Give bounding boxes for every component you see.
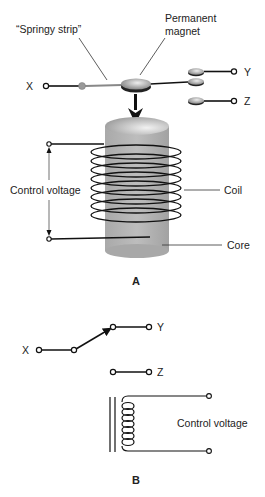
- core-label: Core: [227, 239, 250, 251]
- terminal-z-label-b: Z: [157, 366, 164, 378]
- switch-arm: [76, 330, 108, 349]
- springy-strip-label: “Springy strip”: [16, 23, 82, 35]
- contact-y: [188, 68, 237, 86]
- permanent-magnet: [121, 79, 151, 93]
- coil-label: Coil: [224, 184, 242, 196]
- terminal-y-label: Y: [244, 66, 251, 78]
- figure-a-caption: A: [132, 275, 140, 287]
- terminal-x: [43, 83, 48, 88]
- control-voltage-label-b: Control voltage: [177, 417, 248, 429]
- springy-strip-leader: [79, 38, 107, 80]
- springy-strip: [85, 85, 122, 86]
- relay-diagram: “Springy strip” Permanent magnet X Y: [0, 0, 265, 497]
- terminal-x-label: X: [26, 80, 33, 92]
- permanent-magnet-label-2: magnet: [165, 25, 200, 37]
- control-voltage-label-a: Control voltage: [10, 184, 81, 196]
- terminal-z-label: Z: [244, 95, 251, 107]
- contact-z: [188, 97, 237, 105]
- terminal-x-label-b: X: [22, 344, 29, 356]
- permanent-magnet-label-1: Permanent: [165, 12, 216, 24]
- terminal-y-label-b: Y: [157, 321, 164, 333]
- figure-b: X Y Z Control voltage B: [22, 321, 248, 486]
- magnet-leader: [140, 38, 165, 75]
- figure-b-caption: B: [132, 474, 140, 486]
- pivot-point: [79, 83, 86, 90]
- figure-a: “Springy strip” Permanent magnet X Y: [10, 12, 251, 287]
